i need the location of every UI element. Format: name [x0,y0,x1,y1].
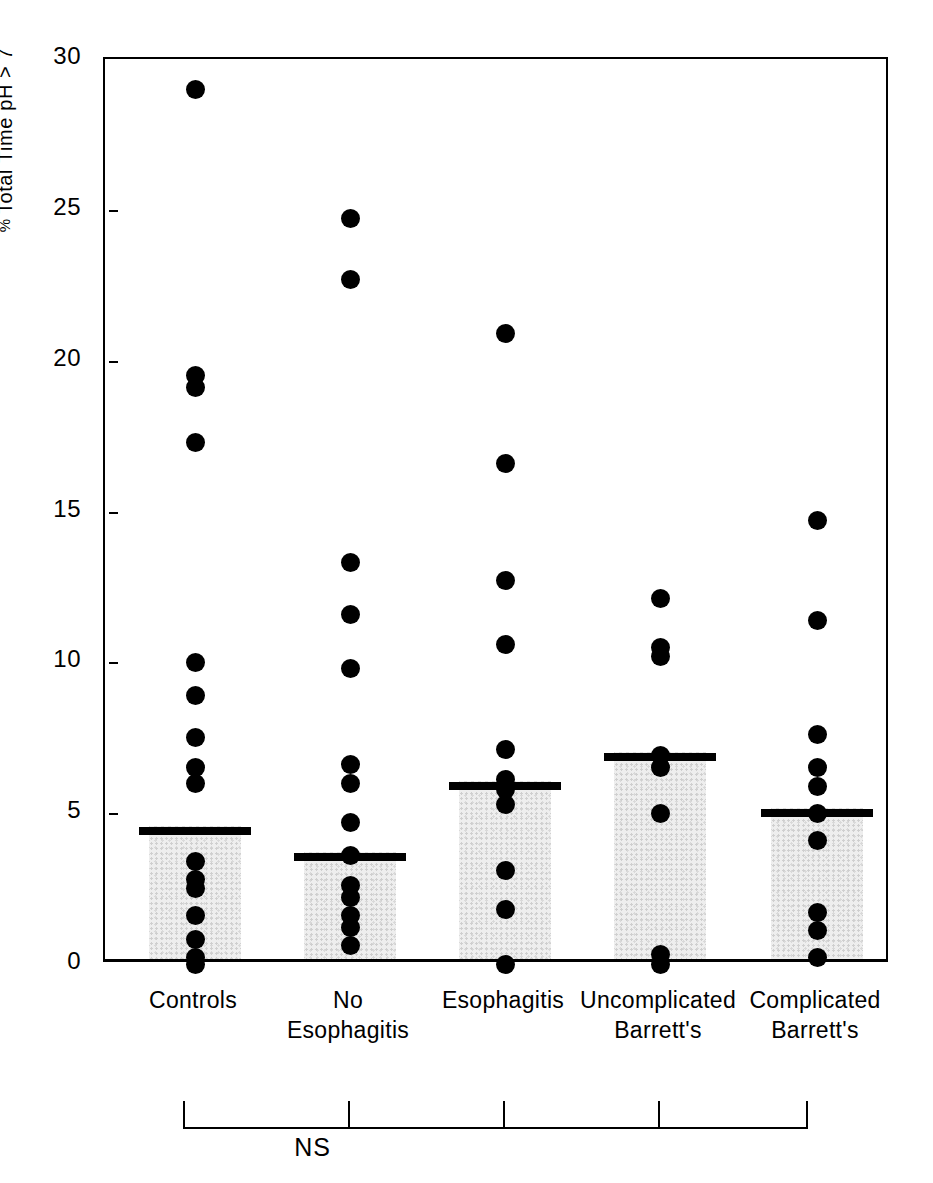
data-point [186,80,205,99]
y-tick-label-0: 0 [21,949,81,973]
y-tick-label-30: 30 [21,44,81,68]
data-point [341,846,360,865]
bracket-tick [658,1101,660,1129]
data-point [341,918,360,937]
y-tick-label-5: 5 [21,798,81,822]
data-point [651,647,670,666]
data-point [341,755,360,774]
data-point [186,930,205,949]
percent-symbol: % [0,220,13,232]
data-point [341,936,360,955]
data-point [808,831,827,850]
y-tick-mark [109,813,118,815]
bracket-tick [348,1101,350,1129]
x-label-complicated-barrett-s: ComplicatedBarrett's [715,985,915,1045]
data-point [341,813,360,832]
y-tick-mark [109,210,118,212]
data-point [496,900,515,919]
data-point [808,725,827,744]
y-tick-mark [109,361,118,363]
data-point [651,589,670,608]
plot-frame [103,57,888,962]
data-point [808,903,827,922]
bracket-tick [806,1101,808,1129]
y-axis-title-text: Total Time pH > 7 [0,48,16,220]
data-point [496,861,515,880]
bracket-tick [183,1101,185,1129]
data-point [808,777,827,796]
data-point [808,758,827,777]
data-point [496,740,515,759]
bar-uncomplicated-barrett-s [614,752,706,959]
data-point [808,948,827,967]
data-point [496,635,515,654]
y-axis-title: % Total Time pH > 7 [0,0,17,300]
data-point [651,955,670,974]
data-point [186,433,205,452]
data-point [496,795,515,814]
x-label-line: Esophagitis [248,1015,448,1045]
data-point [496,324,515,343]
data-point [186,378,205,397]
data-point [186,852,205,871]
data-point [496,955,515,974]
data-point [651,804,670,823]
data-point [341,209,360,228]
data-point [341,605,360,624]
bracket-tick [503,1101,505,1129]
data-point [186,653,205,672]
y-tick-label-15: 15 [21,497,81,521]
data-point [341,553,360,572]
y-tick-label-20: 20 [21,346,81,370]
data-point [341,888,360,907]
x-label-line: Complicated [715,985,915,1015]
x-label-line: Barrett's [715,1015,915,1045]
data-point [808,611,827,630]
y-tick-label-10: 10 [21,647,81,671]
y-tick-label-25: 25 [21,195,81,219]
data-point [496,454,515,473]
data-point [651,758,670,777]
data-point [808,921,827,940]
y-tick-mark [109,662,118,664]
data-point [496,571,515,590]
data-point [186,728,205,747]
data-point [341,270,360,289]
data-point [186,686,205,705]
bracket-baseline [183,1127,808,1129]
significance-bracket [183,1095,808,1129]
data-point [808,804,827,823]
mean-line-controls [139,827,251,835]
data-point [341,659,360,678]
data-point [186,774,205,793]
significance-label: NS [0,1133,625,1162]
data-point [186,906,205,925]
data-point [808,511,827,530]
figure-scatter-plot: 051015202530 % Total Time pH > 7 Control… [0,0,933,1183]
data-point [186,879,205,898]
data-point [341,774,360,793]
y-tick-mark [109,512,118,514]
data-point [186,955,205,974]
